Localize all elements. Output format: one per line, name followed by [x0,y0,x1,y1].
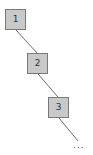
node-1: 1 [5,9,26,30]
edge-1-2 [16,30,37,53]
edge-2-3 [38,74,58,97]
node-label: 2 [35,59,41,68]
edge-3-continuation [59,118,78,141]
node-label: 3 [56,103,62,112]
continuation-ellipsis: ... [73,141,85,150]
node-2: 2 [27,53,48,74]
node-3: 3 [48,97,69,118]
node-label: 1 [13,15,19,24]
